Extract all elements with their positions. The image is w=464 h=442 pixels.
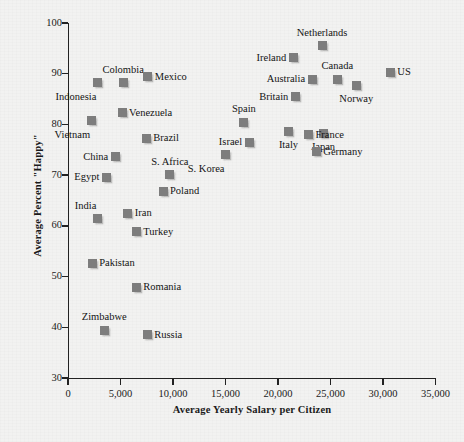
data-point-marker[interactable] (143, 330, 152, 339)
data-point-label: Iran (135, 207, 152, 218)
data-point-marker[interactable] (312, 147, 321, 156)
data-point-marker[interactable] (93, 214, 102, 223)
data-point-marker[interactable] (132, 227, 141, 236)
data-point-label: Ireland (256, 52, 286, 63)
data-point-marker[interactable] (111, 152, 120, 161)
data-point-label: Colombia (102, 64, 143, 75)
data-point-label: Norway (339, 93, 373, 104)
data-point-label: China (83, 151, 108, 162)
data-point-label: Venezuela (129, 107, 172, 118)
data-point-label: S. Africa (151, 156, 188, 167)
data-point-label: Germany (323, 146, 362, 157)
data-point-label: Vietnam (55, 129, 91, 140)
data-point-marker[interactable] (245, 138, 254, 147)
data-point-label: Turkey (143, 226, 173, 237)
data-point-marker[interactable] (132, 283, 141, 292)
data-point-label: Australia (267, 73, 306, 84)
data-point-marker[interactable] (142, 134, 151, 143)
data-point-marker[interactable] (239, 118, 248, 127)
data-point-marker[interactable] (304, 130, 313, 139)
data-point-marker[interactable] (291, 92, 300, 101)
data-point-label: Poland (170, 185, 199, 196)
data-point-marker[interactable] (352, 81, 361, 90)
data-point-label: Spain (232, 103, 256, 114)
data-point-label: Israel (219, 136, 242, 147)
data-point-marker[interactable] (159, 187, 168, 196)
data-point-label: Brazil (153, 132, 179, 143)
data-point-marker[interactable] (333, 75, 342, 84)
x-axis-title: Average Yearly Salary per Citizen (68, 404, 436, 415)
data-point-label: Netherlands (297, 27, 348, 38)
data-point-label: Zimbabwe (82, 311, 127, 322)
data-point-marker[interactable] (143, 72, 152, 81)
data-point-label: India (75, 200, 97, 211)
data-point-marker[interactable] (100, 326, 109, 335)
scatter-plot-figure: 30405060708090100 05,00010,00015,00020,0… (0, 0, 464, 442)
data-point-marker[interactable] (87, 116, 96, 125)
y-axis-title: Average Percent "Happy" (32, 66, 43, 326)
data-point-label: Romania (143, 281, 181, 292)
data-point-marker[interactable] (119, 78, 128, 87)
data-point-label: Indonesia (56, 91, 97, 102)
data-point-label: Britain (259, 91, 288, 102)
data-point-marker[interactable] (221, 150, 230, 159)
data-point-marker[interactable] (93, 78, 102, 87)
plot-area: IndonesiaColombiaMexicoVenezuelaVietnamB… (0, 0, 464, 442)
data-point-marker[interactable] (284, 127, 293, 136)
data-point-marker[interactable] (308, 75, 317, 84)
data-point-marker[interactable] (88, 259, 97, 268)
data-point-marker[interactable] (165, 170, 174, 179)
data-point-marker[interactable] (318, 41, 327, 50)
data-point-label: Mexico (155, 71, 187, 82)
data-point-label: Canada (322, 60, 354, 71)
data-point-marker[interactable] (118, 108, 127, 117)
data-point-marker[interactable] (123, 209, 132, 218)
data-point-label: US (397, 66, 410, 77)
data-point-label: S. Korea (188, 163, 225, 174)
data-point-label: France (315, 129, 344, 140)
data-point-marker[interactable] (289, 53, 298, 62)
data-point-label: Russia (154, 329, 182, 340)
data-point-label: Egypt (74, 171, 99, 182)
data-point-label: Pakistan (99, 257, 135, 268)
data-point-label: Italy (279, 139, 298, 150)
data-point-marker[interactable] (102, 173, 111, 182)
data-point-marker[interactable] (386, 68, 395, 77)
